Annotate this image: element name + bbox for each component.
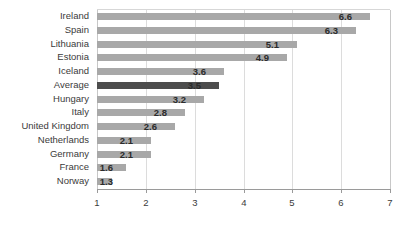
bar-value-label: 6.6 bbox=[324, 10, 352, 23]
bar-row: 2.1 bbox=[97, 148, 390, 161]
bar-value-label: 2.8 bbox=[139, 106, 167, 119]
bar-row: 3.6 bbox=[97, 65, 390, 78]
bar-value-label: 1.6 bbox=[85, 161, 113, 174]
tick-mark bbox=[97, 189, 98, 193]
bar bbox=[97, 96, 204, 103]
bar-chart: IrelandSpainLithuaniaEstoniaIcelandAvera… bbox=[0, 0, 408, 225]
category-label: Average bbox=[54, 78, 89, 91]
category-label: Hungary bbox=[53, 92, 89, 105]
bar-value-label: 2.1 bbox=[105, 148, 133, 161]
category-label: Netherlands bbox=[38, 133, 89, 146]
x-tick-label: 5 bbox=[277, 196, 307, 209]
bar-value-label: 3.2 bbox=[158, 93, 186, 106]
x-tick-label: 6 bbox=[326, 196, 356, 209]
x-tick-label: 4 bbox=[229, 196, 259, 209]
bar-value-label: 6.3 bbox=[310, 24, 338, 37]
bar-value-label: 3.5 bbox=[173, 79, 201, 92]
bar-row: 2.6 bbox=[97, 120, 390, 133]
bar-value-label: 5.1 bbox=[251, 38, 279, 51]
bar-row: 1.3 bbox=[97, 175, 390, 188]
bar-row: 6.6 bbox=[97, 10, 390, 23]
bar-row: 3.5 bbox=[97, 79, 390, 92]
x-axis-tick-marks bbox=[97, 189, 390, 193]
x-tick-label: 3 bbox=[180, 196, 210, 209]
category-label: Iceland bbox=[58, 64, 89, 77]
bar-row: 2.8 bbox=[97, 106, 390, 119]
tick-mark bbox=[341, 189, 342, 193]
category-label: Spain bbox=[65, 23, 89, 36]
x-tick-label: 7 bbox=[375, 196, 405, 209]
bar-value-label: 4.9 bbox=[241, 51, 269, 64]
tick-mark bbox=[195, 189, 196, 193]
bar-row: 5.1 bbox=[97, 38, 390, 51]
bar-value-label: 2.6 bbox=[129, 120, 157, 133]
x-axis-tick-labels: 1234567 bbox=[0, 196, 408, 212]
category-label: Germany bbox=[50, 147, 89, 160]
bar-row: 2.1 bbox=[97, 134, 390, 147]
x-tick-label: 1 bbox=[82, 196, 112, 209]
bar-row: 3.2 bbox=[97, 93, 390, 106]
category-label: Ireland bbox=[60, 9, 89, 22]
bar-value-label: 3.6 bbox=[178, 65, 206, 78]
bar-row: 6.3 bbox=[97, 24, 390, 37]
tick-mark bbox=[390, 189, 391, 193]
category-axis-labels: IrelandSpainLithuaniaEstoniaIcelandAvera… bbox=[0, 9, 93, 188]
gridline bbox=[390, 10, 391, 189]
tick-mark bbox=[244, 189, 245, 193]
category-label: Italy bbox=[72, 105, 89, 118]
plot-area: 6.66.35.14.93.63.53.22.82.62.12.11.61.3 bbox=[97, 9, 390, 190]
category-label: Estonia bbox=[57, 50, 89, 63]
tick-mark bbox=[292, 189, 293, 193]
tick-mark bbox=[146, 189, 147, 193]
x-tick-label: 2 bbox=[131, 196, 161, 209]
category-label: United Kingdom bbox=[21, 119, 89, 132]
bar-row: 1.6 bbox=[97, 161, 390, 174]
bar-row: 4.9 bbox=[97, 51, 390, 64]
bar-value-label: 2.1 bbox=[105, 134, 133, 147]
bar-value-label: 1.3 bbox=[85, 175, 113, 188]
category-label: Lithuania bbox=[50, 37, 89, 50]
